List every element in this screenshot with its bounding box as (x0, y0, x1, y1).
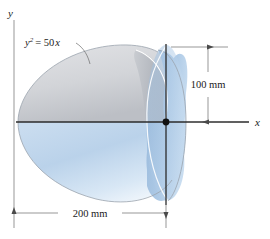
solid-body (18, 45, 187, 202)
height-dimension-label: 100 mm (191, 79, 226, 90)
origin-dot (163, 119, 170, 126)
svg-text:y2= 50x: y2= 50x (24, 36, 60, 48)
length-dimension-label: 200 mm (73, 208, 108, 219)
x-axis-label: x (254, 116, 260, 128)
equation-exponent: 2 (30, 36, 34, 44)
parabola-solid-figure: y x y2= 50x 100 mm (0, 0, 270, 239)
figure-canvas: y x y2= 50x 100 mm (0, 0, 270, 239)
y-axis-label: y (7, 7, 13, 19)
equation-relation: = 50 (35, 37, 54, 48)
equation-variable: x (54, 37, 60, 48)
